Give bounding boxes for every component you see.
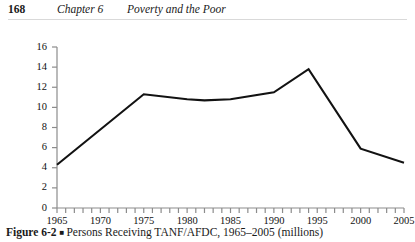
header-divider [8, 19, 407, 20]
data-series-line [57, 69, 404, 165]
figure-caption-text: Persons Receiving TANF/AFDC, 1965–2005 (… [66, 226, 323, 238]
y-axis-tick-label: 8 [27, 122, 47, 132]
y-axis-tick-label: 12 [27, 82, 47, 92]
figure-6-2: 0246810121416 19651970197519801985199019… [0, 30, 415, 220]
chapter-label: Chapter 6 [57, 3, 103, 15]
chart-axes [57, 47, 404, 208]
running-head: 168 Chapter 6 Poverty and the Poor [0, 3, 415, 19]
figure-caption-label: Figure 6-2 [6, 226, 57, 238]
y-axis-tick-label: 16 [27, 42, 47, 52]
y-axis-tick-label: 10 [27, 102, 47, 112]
y-axis-ticks [52, 47, 57, 208]
y-axis-tick-label: 4 [27, 162, 47, 172]
square-bullet-icon: ■ [57, 228, 67, 237]
x-axis-ticks [57, 208, 404, 213]
book-page: 168 Chapter 6 Poverty and the Poor 02468… [0, 0, 415, 242]
page-number: 168 [8, 3, 25, 15]
y-axis-tick-label: 6 [27, 142, 47, 152]
figure-caption: Figure 6-2■Persons Receiving TANF/AFDC, … [6, 225, 410, 240]
y-axis-tick-label: 14 [27, 62, 47, 72]
y-axis-tick-label: 0 [27, 203, 47, 213]
chapter-title: Poverty and the Poor [127, 3, 226, 15]
line-chart [0, 30, 415, 220]
y-axis-tick-label: 2 [27, 182, 47, 192]
